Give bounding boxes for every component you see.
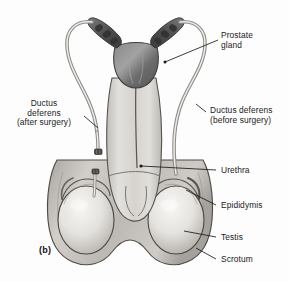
- penis-shaft: [107, 78, 162, 221]
- figure-id-label: (b): [39, 245, 51, 255]
- leader-prostate: [165, 40, 218, 62]
- vasectomy-clip-lower: [92, 169, 99, 174]
- figure-panel: Prostate gland Ductus deferens (after su…: [0, 0, 289, 281]
- ductus-deferens-right: [174, 22, 205, 174]
- vasectomy-clip-upper: [95, 149, 103, 155]
- label-testis: Testis: [221, 233, 243, 243]
- leader-ductus-before: [196, 104, 206, 112]
- label-epididymis: Epididymis: [221, 201, 263, 211]
- label-urethra: Urethra: [221, 166, 250, 176]
- label-prostate-gland: Prostate gland: [221, 31, 253, 50]
- label-scrotum: Scrotum: [221, 255, 253, 265]
- label-ductus-deferens-after-surgery: Ductus deferens (after surgery): [6, 99, 82, 128]
- label-ductus-deferens-before-surgery: Ductus deferens (before surgery): [210, 106, 273, 125]
